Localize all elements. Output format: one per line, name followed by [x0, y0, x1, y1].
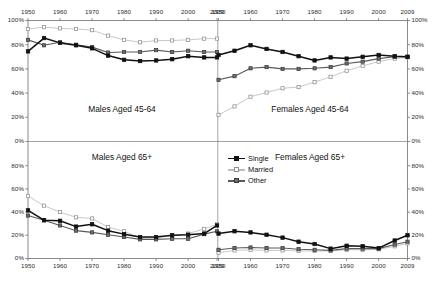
datapoint-males-45-64-other-1955	[42, 44, 45, 47]
x-tick-top-females-45-64-1970: 1970	[269, 8, 297, 15]
datapoint-males-45-64-single-2000	[186, 55, 189, 58]
datapoint-males-65-plus-other-1995	[171, 237, 174, 240]
datapoint-males-45-64-other-2005	[203, 50, 206, 53]
y-tick-males-65-plus-80: 80%	[2, 162, 24, 169]
y-tick-males-65-plus-60: 60%	[2, 185, 24, 192]
datapoint-females-45-64-single-1990	[345, 57, 348, 60]
datapoint-females-45-64-single-2009	[406, 55, 409, 58]
datapoint-females-45-64-married-1990	[345, 69, 348, 72]
datapoint-females-45-64-married-1970	[281, 87, 284, 90]
x-tick-bot-males-65-plus-1970: 1970	[78, 262, 106, 269]
datapoint-males-65-plus-single-1955	[42, 219, 45, 222]
panel-title-males-45-64: Males Aged 45-64	[62, 104, 182, 114]
datapoint-males-45-64-other-1980	[123, 50, 126, 53]
datapoint-females-45-64-married-1960	[249, 95, 252, 98]
datapoint-males-45-64-single-1990	[154, 59, 157, 62]
datapoint-females-65-plus-single-1950	[217, 232, 220, 235]
datapoint-females-65-plus-single-1990	[345, 244, 348, 247]
y-tick-females-45-64-40: 40%	[412, 89, 435, 96]
datapoint-males-45-64-married-1990	[155, 39, 158, 42]
x-tick-top-males-45-64-1980: 1980	[110, 8, 138, 15]
datapoint-males-45-64-single-1960	[58, 41, 61, 44]
datapoint-males-65-plus-single-1995	[170, 234, 173, 237]
legend-item-other: Other	[228, 175, 273, 186]
y-tick-females-45-64-60: 60%	[412, 65, 435, 72]
datapoint-females-45-64-single-1980	[313, 59, 316, 62]
panel-title-females-45-64: Females Aged 45-64	[250, 104, 370, 114]
datapoint-males-65-plus-single-1980	[122, 232, 125, 235]
legend-marker-single-icon	[228, 154, 245, 163]
datapoint-males-45-64-married-1975	[106, 34, 109, 37]
datapoint-males-65-plus-single-1960	[58, 219, 61, 222]
x-tick-bot-females-65-plus-1960: 1960	[237, 262, 265, 269]
datapoint-males-45-64-other-1995	[171, 50, 174, 53]
datapoint-females-45-64-single-1970	[281, 50, 284, 53]
datapoint-males-65-plus-single-1985	[138, 235, 141, 238]
datapoint-females-45-64-single-2000	[377, 53, 380, 56]
datapoint-females-45-64-other-1975	[297, 67, 300, 70]
datapoint-females-45-64-single-2005	[393, 55, 396, 58]
datapoint-females-65-plus-single-1995	[361, 245, 364, 248]
datapoint-males-45-64-married-1980	[123, 38, 126, 41]
datapoint-males-45-64-single-1965	[74, 44, 77, 47]
datapoint-males-65-plus-married-1975	[106, 226, 109, 229]
datapoint-males-65-plus-single-1970	[90, 223, 93, 226]
datapoint-males-45-64-single-1970	[90, 47, 93, 50]
x-tick-bot-males-65-plus-2000: 2000	[174, 262, 202, 269]
datapoint-males-45-64-other-1985	[139, 50, 142, 53]
x-tick-bot-males-65-plus-1990: 1990	[142, 262, 170, 269]
datapoint-males-65-plus-married-1970	[90, 217, 93, 220]
datapoint-males-45-64-single-1955	[42, 36, 45, 39]
datapoint-females-65-plus-other-2005	[393, 243, 396, 246]
datapoint-females-65-plus-other-1950	[217, 248, 220, 251]
datapoint-males-65-plus-other-1950	[26, 214, 29, 217]
datapoint-males-65-plus-married-1950	[26, 194, 29, 197]
x-tick-bot-males-65-plus-1980: 1980	[110, 262, 138, 269]
datapoint-females-65-plus-single-1985	[329, 247, 332, 250]
datapoint-females-45-64-single-1965	[265, 47, 268, 50]
y-tick-males-45-64-0: 0%	[2, 137, 24, 144]
datapoint-males-45-64-married-1985	[139, 41, 142, 44]
datapoint-females-45-64-married-1965	[265, 91, 268, 94]
datapoint-males-65-plus-married-1965	[74, 216, 77, 219]
datapoint-females-45-64-other-1960	[249, 67, 252, 70]
legend-marker-other-icon	[228, 176, 245, 185]
datapoint-males-45-64-married-2005	[203, 37, 206, 40]
datapoint-males-45-64-married-2000	[187, 38, 190, 41]
datapoint-males-45-64-married-1955	[42, 26, 45, 29]
datapoint-females-45-64-married-1950	[217, 113, 220, 116]
y-tick-males-65-plus-40: 40%	[2, 208, 24, 215]
datapoint-females-65-plus-other-1970	[281, 246, 284, 249]
y-tick-females-65-plus-80: 80%	[412, 162, 435, 169]
legend-item-married: Married	[228, 164, 273, 175]
datapoint-females-65-plus-other-1965	[265, 246, 268, 249]
datapoint-females-45-64-married-1995	[361, 64, 364, 67]
datapoint-males-45-64-single-1980	[122, 58, 125, 61]
datapoint-males-45-64-other-2000	[187, 49, 190, 52]
datapoint-males-65-plus-other-1975	[106, 233, 109, 236]
datapoint-females-45-64-single-1955	[233, 49, 236, 52]
x-tick-top-females-45-64-1960: 1960	[237, 8, 265, 15]
datapoint-females-65-plus-single-1955	[233, 230, 236, 233]
datapoint-females-45-64-single-1950	[217, 53, 220, 56]
datapoint-females-65-plus-single-1965	[265, 233, 268, 236]
datapoint-males-65-plus-single-1975	[106, 229, 109, 232]
datapoint-males-45-64-other-1990	[155, 49, 158, 52]
y-tick-males-45-64-60: 60%	[2, 65, 24, 72]
x-tick-top-males-45-64-1970: 1970	[78, 8, 106, 15]
y-tick-females-45-64-80: 80%	[412, 41, 435, 48]
datapoint-males-65-plus-single-2009	[215, 224, 218, 227]
x-tick-top-males-45-64-1960: 1960	[46, 8, 74, 15]
datapoint-males-65-plus-single-2000	[186, 233, 189, 236]
datapoint-females-45-64-other-1980	[313, 67, 316, 70]
datapoint-males-65-plus-single-1990	[154, 235, 157, 238]
datapoint-males-45-64-married-2009	[215, 37, 218, 40]
datapoint-males-45-64-married-1950	[26, 27, 29, 30]
datapoint-females-45-64-other-1955	[233, 75, 236, 78]
datapoint-females-45-64-other-1995	[361, 60, 364, 63]
y-tick-females-65-plus-60: 60%	[412, 185, 435, 192]
datapoint-males-65-plus-single-1950	[26, 209, 29, 212]
x-tick-bot-males-65-plus-1950: 1950	[14, 262, 42, 269]
datapoint-females-65-plus-single-1975	[297, 240, 300, 243]
datapoint-females-45-64-single-1985	[329, 56, 332, 59]
